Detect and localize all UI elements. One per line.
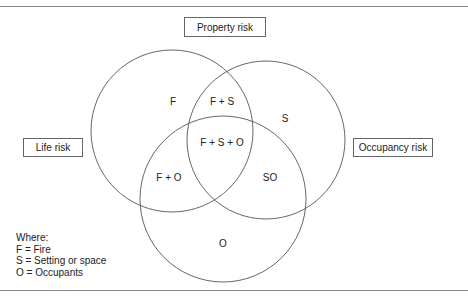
- legend-title: Where:: [16, 232, 106, 244]
- region-so: SO: [263, 172, 277, 183]
- property-risk-label: Property risk: [184, 17, 266, 37]
- life-risk-label: Life risk: [23, 138, 83, 157]
- legend: Where: F = Fire S = Setting or space O =…: [16, 232, 106, 278]
- circle-fire: [91, 50, 253, 212]
- legend-item-occupants: O = Occupants: [16, 267, 106, 279]
- legend-item-setting: S = Setting or space: [16, 255, 106, 267]
- region-fo: F + O: [156, 172, 181, 183]
- region-s: S: [282, 113, 289, 124]
- occupancy-risk-label: Occupancy risk: [353, 138, 433, 157]
- region-f: F: [170, 96, 176, 107]
- region-fso: F + S + O: [200, 137, 243, 148]
- venn-diagram-figure: Property risk Life risk Occupancy risk F…: [0, 0, 468, 297]
- region-o: O: [219, 238, 227, 249]
- legend-item-fire: F = Fire: [16, 244, 106, 256]
- region-fs: F + S: [210, 96, 234, 107]
